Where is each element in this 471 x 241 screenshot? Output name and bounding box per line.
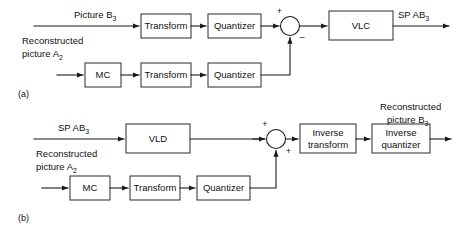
block-b-quantizer-label: Quantizer <box>203 182 244 193</box>
block-b-inverse-transform-label-line1: Inverse <box>312 127 343 138</box>
panel-a-sum-sign-bottom: – <box>299 32 304 42</box>
panel-b-output-label-line1: Reconstructed <box>380 101 441 112</box>
panel-b-caption: (b) <box>18 213 29 223</box>
block-a-mc-label: MC <box>96 69 111 80</box>
panel-b-input-bottom-label-line1: Reconstructed <box>36 148 97 159</box>
panel-b-sum-sign-bottom: + <box>286 146 291 156</box>
panel-b-sum-sign-top: + <box>262 119 267 129</box>
block-b-inverse-quantizer-label-line1: Inverse <box>385 127 416 138</box>
panel-b-input-bottom-label-line2: picture A2 <box>36 161 77 174</box>
panel-a-output-label: SP AB3 <box>398 9 429 22</box>
panel-a-feedback-wire <box>261 38 290 76</box>
block-a-vlc-label: VLC <box>352 20 371 31</box>
panel-a-input-top-label: Picture B3 <box>74 9 117 22</box>
block-a-transform-bottom-label: Transform <box>145 69 188 80</box>
block-a-quantizer-bottom-label: Quantizer <box>214 69 255 80</box>
panel-b-feedback-wire <box>250 151 276 189</box>
block-b-transform-label: Transform <box>134 182 177 193</box>
panel-a-sum-sign-top: + <box>277 6 282 16</box>
panel-a-caption: (a) <box>18 89 29 99</box>
panel-a-summing-junction <box>281 17 300 36</box>
block-a-transform-top-label: Transform <box>145 20 188 31</box>
figure-container: Transform Quantizer + – VLC MC Transform… <box>0 0 471 241</box>
panel-a-input-bottom-label-line2: picture A2 <box>22 48 63 61</box>
block-b-vld-label: VLD <box>149 133 168 144</box>
panel-b-summing-junction <box>267 130 286 149</box>
block-b-mc-label: MC <box>83 182 98 193</box>
diagram-canvas: Transform Quantizer + – VLC MC Transform… <box>0 0 471 241</box>
block-b-inverse-transform-label-line2: transform <box>308 139 348 150</box>
block-a-quantizer-top-label: Quantizer <box>214 20 255 31</box>
panel-a-input-bottom-label-line1: Reconstructed <box>22 35 83 46</box>
panel-b-input-top-label: SP AB3 <box>58 122 89 135</box>
block-b-inverse-quantizer-label-line2: quantizer <box>381 139 420 150</box>
